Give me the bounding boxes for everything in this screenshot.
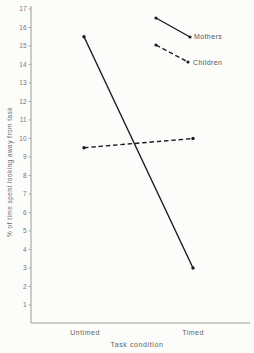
chart-canvas: 1234567891011121314151617 bbox=[0, 0, 254, 353]
legend-line-children bbox=[156, 45, 188, 62]
y-tick-label: 7 bbox=[23, 190, 27, 197]
data-point-children bbox=[191, 137, 194, 140]
legend-dot-mothers bbox=[154, 16, 157, 19]
y-tick-label: 1 bbox=[23, 301, 27, 308]
legend-dot-mothers bbox=[188, 35, 191, 38]
data-point-children bbox=[82, 146, 85, 149]
y-tick-label: 12 bbox=[19, 98, 27, 105]
legend-line-mothers bbox=[156, 18, 190, 37]
data-point-mothers bbox=[191, 266, 194, 269]
line-chart-figure: 1234567891011121314151617 % of time spen… bbox=[0, 0, 254, 353]
data-point-mothers bbox=[82, 35, 85, 38]
x-tick-label-timed: Timed bbox=[182, 329, 204, 336]
y-tick-label: 11 bbox=[20, 116, 27, 123]
y-tick-label: 15 bbox=[19, 42, 27, 49]
y-axis-title: % of time spent looking away from task bbox=[6, 107, 13, 237]
y-tick-label: 6 bbox=[23, 209, 27, 216]
y-tick-label: 16 bbox=[19, 24, 27, 31]
x-tick-label-untimed: Untimed bbox=[70, 329, 100, 336]
y-tick-label: 2 bbox=[23, 283, 27, 290]
y-tick-label: 5 bbox=[23, 227, 27, 234]
y-tick-label: 4 bbox=[23, 246, 27, 253]
series-line-mothers bbox=[84, 37, 193, 268]
y-tick-label: 10 bbox=[19, 135, 27, 142]
legend-label-children: Children bbox=[193, 59, 222, 66]
y-tick-label: 8 bbox=[23, 172, 27, 179]
y-tick-label: 17 bbox=[19, 5, 27, 12]
y-tick-label: 13 bbox=[19, 79, 27, 86]
y-tick-label: 14 bbox=[19, 61, 27, 68]
legend-dot-children bbox=[154, 43, 157, 46]
series-line-children bbox=[84, 139, 193, 148]
legend-dot-children bbox=[186, 60, 189, 63]
y-tick-label: 9 bbox=[23, 153, 27, 160]
y-tick-label: 3 bbox=[23, 264, 27, 271]
x-axis-title: Task condition bbox=[111, 341, 164, 348]
legend-label-mothers: Mothers bbox=[194, 33, 222, 40]
